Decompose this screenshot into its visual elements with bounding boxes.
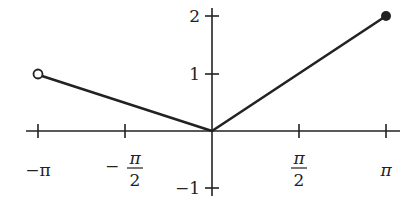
x-tick-label-pi: π bbox=[379, 160, 392, 180]
y-tick-label-1: 1 bbox=[189, 64, 200, 84]
x-tick-label-neg-half-pi-sign: − bbox=[105, 156, 119, 176]
x-tick-label-neg-half-pi-num: π bbox=[128, 148, 141, 168]
open-circle-endpoint bbox=[34, 70, 43, 79]
x-tick-label-half-pi-den: 2 bbox=[294, 170, 305, 190]
filled-circle-endpoint bbox=[381, 11, 391, 21]
y-tick-label-2: 2 bbox=[189, 6, 200, 26]
chart: −π − π 2 π 2 π 2 1 −1 bbox=[0, 0, 418, 209]
y-tick-label-neg1: −1 bbox=[175, 178, 200, 198]
x-tick-label-half-pi-num: π bbox=[292, 148, 305, 168]
x-tick-label-neg-half-pi-den: 2 bbox=[130, 170, 141, 190]
x-tick-label-neg-pi: −π bbox=[25, 160, 50, 180]
